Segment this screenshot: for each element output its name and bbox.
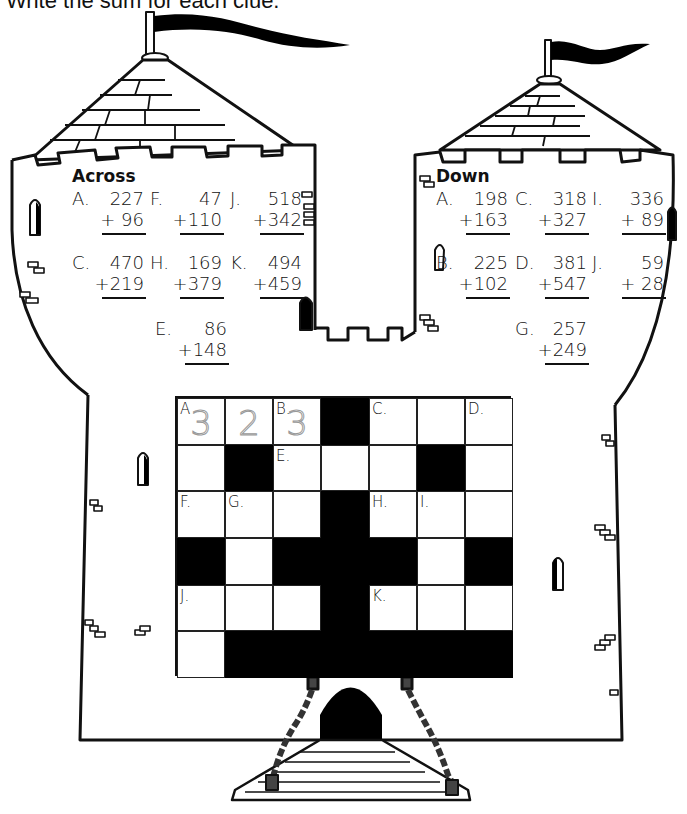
grid-cell[interactable]: H. [369, 491, 417, 538]
clue-label: G. [515, 318, 535, 339]
grid-cell-blocked [273, 631, 321, 678]
clue-addend-bottom: + 28 [620, 273, 664, 294]
clue-number: D. [468, 400, 484, 418]
grid-cell[interactable] [273, 491, 321, 538]
grid-cell[interactable]: C. [369, 398, 417, 445]
clue-label: A. [436, 188, 454, 209]
clue-addend-top: 381 [553, 252, 587, 273]
sum-line [545, 233, 589, 235]
clue-addend-bottom: +459 [253, 273, 302, 294]
clue-label: I. [592, 188, 603, 209]
grid-cell-blocked [225, 445, 273, 492]
sum-line [466, 297, 510, 299]
gate-arch [320, 688, 382, 741]
grid-cell[interactable] [321, 445, 369, 492]
grid-cell-blocked [321, 585, 369, 632]
across-heading: Across [72, 166, 136, 186]
clue-addend-top: 494 [268, 252, 302, 273]
grid-cell-blocked [465, 538, 513, 585]
clue-label: E. [155, 318, 172, 339]
clue-label: B. [436, 252, 454, 273]
sum-line [260, 233, 304, 235]
clue-number: J. [180, 587, 189, 605]
clue-label: J. [230, 188, 241, 209]
grid-cell-blocked [225, 631, 273, 678]
clue-addend-bottom: +379 [173, 273, 222, 294]
clue-label: K. [230, 252, 248, 273]
sum-line [466, 233, 510, 235]
clue-label: F. [150, 188, 163, 209]
grid-cell[interactable]: G. [225, 491, 273, 538]
clue-number: E. [276, 447, 290, 465]
grid-cell[interactable] [177, 631, 225, 678]
grid-cell[interactable] [465, 585, 513, 632]
sum-line [622, 233, 666, 235]
grid-cell[interactable] [417, 398, 465, 445]
clue-label: A. [72, 188, 90, 209]
clue-addend-bottom: + 96 [100, 209, 144, 230]
crossword-grid: A32B.3C.D.E.F.G.H.I.J.K. [175, 396, 511, 676]
clue-addend-bottom: +163 [459, 209, 508, 230]
clue-label: H. [150, 252, 169, 273]
clue-label: J. [592, 252, 603, 273]
grid-cell[interactable]: B.3 [273, 398, 321, 445]
grid-cell-blocked [321, 398, 369, 445]
down-heading: Down [436, 166, 490, 186]
sum-line [260, 297, 304, 299]
right-tower-roof [440, 84, 660, 150]
grid-cell-blocked [369, 631, 417, 678]
sum-line [185, 363, 229, 365]
clue-addend-bottom: +342 [253, 209, 302, 230]
grid-cell-blocked [417, 445, 465, 492]
grid-cell[interactable]: A3 [177, 398, 225, 445]
grid-cell-blocked [177, 538, 225, 585]
sum-line [180, 297, 224, 299]
clue-number: C. [372, 400, 387, 418]
clue-number: H. [372, 493, 388, 511]
clue-label: D. [515, 252, 535, 273]
sum-line [180, 233, 224, 235]
clue-label: C. [515, 188, 533, 209]
clue-addend-bottom: + 89 [620, 209, 664, 230]
grid-cell[interactable]: I. [417, 491, 465, 538]
clue-addend-bottom: +110 [173, 209, 222, 230]
right-flag-icon [537, 40, 650, 84]
clue-addend-top: 470 [110, 252, 144, 273]
grid-cell[interactable]: F. [177, 491, 225, 538]
connecting-wall [315, 328, 415, 340]
traced-answer-digit: 3 [274, 403, 320, 443]
sum-line [102, 297, 146, 299]
grid-cell[interactable] [465, 445, 513, 492]
sum-line [102, 233, 146, 235]
grid-cell-blocked [321, 631, 369, 678]
grid-cell[interactable] [369, 445, 417, 492]
clue-addend-top: 47 [199, 188, 222, 209]
clue-addend-top: 59 [641, 252, 664, 273]
grid-cell[interactable]: E. [273, 445, 321, 492]
grid-cell-blocked [465, 631, 513, 678]
traced-answer-digit: 2 [226, 403, 272, 443]
traced-answer-digit: 3 [178, 403, 224, 443]
clue-number: G. [228, 493, 244, 511]
grid-cell[interactable] [225, 585, 273, 632]
grid-cell[interactable]: D. [465, 398, 513, 445]
grid-cell[interactable] [417, 538, 465, 585]
clue-addend-bottom: +148 [178, 339, 227, 360]
grid-cell[interactable]: J. [177, 585, 225, 632]
clue-number: K. [372, 587, 387, 605]
clue-addend-top: 225 [474, 252, 508, 273]
sum-line [622, 297, 666, 299]
grid-cell-blocked [321, 538, 369, 585]
grid-cell[interactable] [465, 491, 513, 538]
grid-cell[interactable] [417, 585, 465, 632]
clue-number: F. [180, 493, 191, 511]
grid-cell-blocked [321, 491, 369, 538]
grid-cell[interactable] [273, 585, 321, 632]
grid-cell-blocked [273, 538, 321, 585]
grid-cell[interactable]: 2 [225, 398, 273, 445]
clue-addend-top: 86 [204, 318, 227, 339]
grid-cell[interactable] [177, 445, 225, 492]
grid-cell[interactable]: K. [369, 585, 417, 632]
grid-cell-blocked [417, 631, 465, 678]
grid-cell[interactable] [225, 538, 273, 585]
